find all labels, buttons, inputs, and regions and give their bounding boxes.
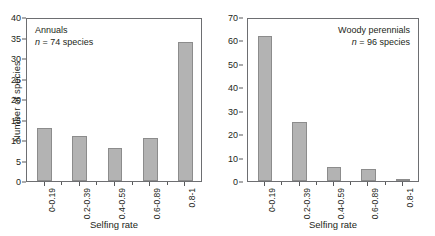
x-axis-title-left: Selfing rate — [26, 219, 202, 230]
bar — [72, 136, 87, 181]
y-axis-ticks-right: 010203040506070 — [217, 18, 243, 182]
bar-group-right — [248, 19, 418, 181]
x-tick-label: 0.6-0.89 — [371, 188, 380, 219]
x-minor-tick-mark — [96, 182, 97, 185]
y-tick-label: 0 — [233, 178, 238, 187]
x-minor-tick-mark — [167, 182, 168, 185]
x-tick-label: 0.2-0.39 — [303, 188, 312, 219]
y-tick-label: 0 — [16, 178, 21, 187]
bar — [108, 148, 123, 181]
y-tick-mark — [239, 41, 243, 42]
x-tick-label: 0-0.19 — [48, 188, 57, 212]
y-tick-label: 10 — [228, 154, 238, 163]
x-tick-label: 0.2-0.39 — [83, 188, 92, 219]
bar — [361, 169, 375, 181]
x-minor-tick-mark — [350, 182, 351, 185]
panel-annuals: Number of species 0510152025303540 Annua… — [0, 0, 218, 236]
bar — [143, 138, 158, 181]
bar — [292, 122, 306, 181]
bar — [327, 167, 341, 181]
y-tick-mark — [239, 18, 243, 19]
x-tick-label: 0.6-0.89 — [153, 188, 162, 219]
bar — [178, 42, 193, 181]
y-tick-label: 70 — [228, 14, 238, 23]
x-minor-tick-mark — [316, 182, 317, 185]
bar — [258, 36, 272, 181]
plot-area-left: Annuals n = 74 species — [26, 18, 202, 182]
y-tick-mark — [239, 88, 243, 89]
y-tick-label: 25 — [11, 75, 21, 84]
x-minor-tick-mark — [281, 182, 282, 185]
x-axis-tick-labels-left: 0-0.190.2-0.390.4-0.590.6-0.890.8-1 — [26, 186, 202, 216]
x-minor-tick-mark — [385, 182, 386, 185]
bar — [37, 128, 52, 181]
y-tick-mark — [239, 111, 243, 112]
y-tick-label: 15 — [11, 116, 21, 125]
y-tick-label: 20 — [228, 131, 238, 140]
bar-group-left — [27, 19, 201, 181]
y-tick-label: 30 — [228, 107, 238, 116]
y-tick-mark — [239, 158, 243, 159]
bar — [396, 179, 410, 181]
y-tick-label: 5 — [16, 157, 21, 166]
y-tick-label: 50 — [228, 60, 238, 69]
x-axis-tick-labels-right: 0-0.190.2-0.390.4-0.590.6-0.890.8-1 — [247, 186, 419, 216]
x-minor-tick-mark — [61, 182, 62, 185]
y-tick-label: 35 — [11, 34, 21, 43]
y-tick-label: 40 — [11, 14, 21, 23]
y-tick-label: 60 — [228, 37, 238, 46]
x-tick-label: 0.4-0.59 — [337, 188, 346, 219]
panel-woody-perennials: 010203040506070 Woody perennials n = 96 … — [217, 0, 435, 236]
y-tick-mark — [239, 64, 243, 65]
x-tick-label: 0-0.19 — [268, 188, 277, 212]
x-minor-tick-mark — [132, 182, 133, 185]
figure-container: Number of species 0510152025303540 Annua… — [0, 0, 435, 236]
plot-area-right: Woody perennials n = 96 species — [247, 18, 419, 182]
y-tick-label: 30 — [11, 55, 21, 64]
y-tick-label: 20 — [11, 96, 21, 105]
y-axis-ticks-left: 0510152025303540 — [0, 18, 26, 182]
x-axis-title-right: Selfing rate — [247, 219, 419, 230]
x-tick-label: 0.8-1 — [406, 188, 415, 207]
x-tick-label: 0.4-0.59 — [118, 188, 127, 219]
y-tick-mark — [239, 135, 243, 136]
y-tick-label: 10 — [11, 137, 21, 146]
y-tick-label: 40 — [228, 84, 238, 93]
x-tick-label: 0.8-1 — [188, 188, 197, 207]
y-tick-mark — [239, 182, 243, 183]
